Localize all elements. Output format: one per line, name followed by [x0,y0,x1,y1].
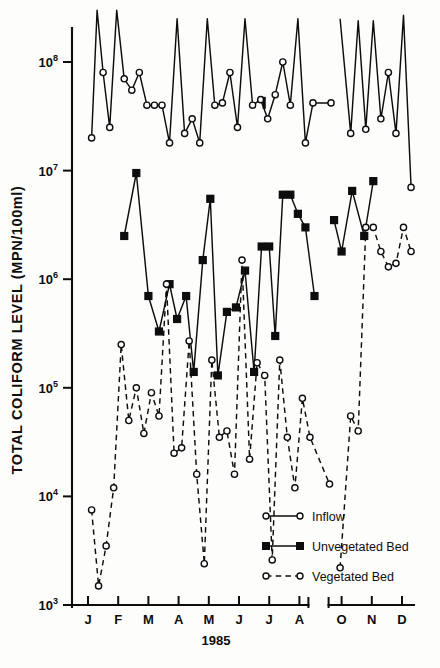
legend-label: Inflow [312,510,346,524]
data-point-open-circle [363,224,369,230]
data-point-open-circle [129,87,135,93]
legend-item-inflow: Inflow [263,510,346,524]
data-point-open-circle [100,69,106,75]
data-point-open-circle [111,485,117,491]
data-point-open-circle [166,140,172,146]
data-point-open-circle [355,428,361,434]
y-tick-label: 103 [39,596,58,613]
data-point-filled-square [287,191,294,198]
data-point-open-circle [201,561,207,567]
x-tick-label: M [143,612,154,627]
y-tick-label: 107 [39,162,58,179]
data-point-open-circle [385,264,391,270]
data-point-open-circle [302,140,308,146]
x-tick-label: A [174,612,184,627]
data-point-open-circle [348,413,354,419]
data-point-filled-square [302,224,309,231]
data-point-open-circle [239,257,245,263]
y-tick-label: 104 [39,487,58,504]
data-point-open-circle [136,69,142,75]
data-point-open-circle [209,357,215,363]
y-tick-label: 108 [39,53,58,70]
data-point-open-circle [246,456,252,462]
x-tick-label: A [295,612,305,627]
data-point-filled-square [199,257,206,264]
data-point-filled-square [294,210,301,217]
x-tick-label: J [235,612,242,627]
data-point-open-circle [227,69,233,75]
legend-marker-filled-square [297,543,304,550]
x-tick-label: J [84,612,91,627]
y-axis: 108107106105104103 [39,28,72,613]
data-point-filled-square [370,178,377,185]
data-point-open-circle [89,507,95,513]
series-path [340,15,411,187]
data-point-open-circle [156,413,162,419]
data-point-open-circle [151,102,157,108]
data-point-open-circle [179,445,185,451]
data-point-open-circle [95,583,101,589]
legend-marker-open-circle [263,573,269,579]
series-inflow [89,10,415,190]
legend-marker-open-circle [297,573,303,579]
data-point-filled-square [145,293,152,300]
data-point-open-circle [277,357,283,363]
data-point-filled-square [338,248,345,255]
legend-marker-filled-square [263,543,270,550]
data-point-open-circle [249,102,255,108]
y-tick-label: 106 [39,270,58,287]
data-point-open-circle [148,390,154,396]
data-point-open-circle [400,224,406,230]
legend-item-unvegetated-bed: Unvegetated Bed [263,540,409,554]
legend-item-vegetated-bed: Vegetated Bed [263,570,394,584]
data-point-open-circle [280,59,286,65]
data-point-open-circle [194,471,200,477]
data-point-open-circle [121,76,127,82]
series-path [340,227,411,567]
x-tick-label: F [114,612,122,627]
data-point-open-circle [328,100,334,106]
series-vegetated-bed [89,224,415,589]
x-axis-title: 1985 [202,633,231,648]
figure-container: 108107106105104103 JFMAMJJAOND InflowUnv… [0,0,440,668]
legend-label: Unvegetated Bed [312,540,409,554]
data-point-filled-square [349,188,356,195]
data-point-open-circle [133,385,139,391]
data-point-open-circle [171,450,177,456]
x-tick-label: D [397,612,406,627]
x-tick-label: N [367,612,376,627]
data-point-open-circle [307,434,313,440]
data-series-group [89,10,415,589]
data-point-open-circle [272,92,278,98]
data-point-open-circle [370,224,376,230]
data-point-open-circle [254,360,260,366]
data-point-open-circle [348,130,354,136]
data-point-open-circle [265,116,271,122]
data-point-open-circle [299,395,305,401]
y-tick-label: 105 [39,379,58,396]
data-point-open-circle [182,130,188,136]
coliform-line-chart: 108107106105104103 JFMAMJJAOND InflowUnv… [0,0,440,668]
data-point-open-circle [126,417,132,423]
legend-label: Vegetated Bed [312,570,394,584]
series-path [92,10,331,143]
data-point-open-circle [163,281,169,287]
data-point-open-circle [189,116,195,122]
chart-legend: InflowUnvegetated BedVegetated Bed [263,510,409,584]
data-point-open-circle [224,428,230,434]
data-point-filled-square [233,304,240,311]
x-tick-label: J [266,612,273,627]
data-point-open-circle [408,184,414,190]
data-point-open-circle [385,69,391,75]
y-axis-title: TOTAL COLIFORM LEVEL (MPN/100ml) [9,186,25,475]
data-point-filled-square [272,333,279,340]
data-point-open-circle [378,248,384,254]
series-path [124,173,314,375]
data-point-open-circle [212,102,218,108]
legend-marker-open-circle [297,513,303,519]
data-point-open-circle [103,543,109,549]
data-point-open-circle [216,434,222,440]
data-point-open-circle [363,126,369,132]
data-point-filled-square [214,372,221,379]
data-point-filled-square [174,316,181,323]
